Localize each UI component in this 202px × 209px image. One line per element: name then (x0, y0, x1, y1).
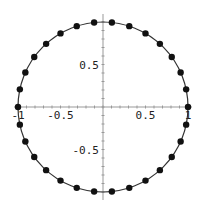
data-point (17, 121, 23, 127)
data-point (177, 69, 183, 75)
data-point (169, 54, 175, 60)
data-point (126, 185, 132, 191)
data-point (43, 167, 49, 173)
data-point (183, 121, 189, 127)
data-point (57, 177, 63, 183)
x-tick-label: -0.5 (47, 109, 74, 122)
x-tick-label: -1 (11, 109, 24, 122)
circle-plot: -1-0.50.510.5-0.5 (0, 0, 202, 209)
y-tick-label: -0.5 (73, 144, 100, 157)
data-point (74, 185, 80, 191)
data-point (157, 167, 163, 173)
data-point (31, 154, 37, 160)
data-point (183, 86, 189, 92)
x-tick-label: 1 (185, 109, 192, 122)
data-point (109, 19, 115, 25)
data-point (142, 177, 148, 183)
data-point (22, 69, 28, 75)
data-point (177, 138, 183, 144)
data-point (91, 188, 97, 194)
data-point (31, 54, 37, 60)
data-point (22, 138, 28, 144)
data-point (142, 30, 148, 36)
y-tick-label: 0.5 (79, 59, 99, 72)
data-point (109, 188, 115, 194)
data-point (91, 19, 97, 25)
data-point (169, 154, 175, 160)
data-point (17, 86, 23, 92)
axis-ticks (18, 22, 188, 192)
x-tick-label: 0.5 (136, 109, 156, 122)
data-point (57, 30, 63, 36)
chart-container: -1-0.50.510.5-0.5 (0, 0, 202, 209)
data-point (157, 41, 163, 47)
data-point (74, 23, 80, 29)
data-point (126, 23, 132, 29)
data-point (43, 41, 49, 47)
